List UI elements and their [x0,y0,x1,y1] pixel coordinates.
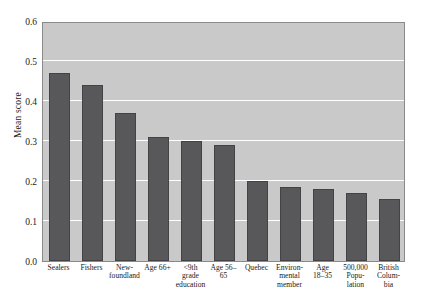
y-tick-label: 0.2 [25,177,37,187]
bar [346,193,366,261]
bar [82,85,102,261]
x-tick-label: Age 56–65 [207,264,240,281]
x-tick-label-line: Sealers [42,264,75,272]
x-axis-tick-labels: SealersFishersNew-foundlandAge 66+<9thgr… [42,264,405,297]
y-tick-label: 0.3 [25,137,37,147]
x-tick-label-line: bia [372,281,405,289]
y-tick-label: 0.0 [25,257,37,267]
y-tick-label: 0.5 [25,57,37,67]
bar [280,187,300,261]
x-tick-label-line: education [174,281,207,289]
y-tick-label: 0.1 [25,217,37,227]
bar [181,141,201,261]
x-tick-label: <9thgradeeducation [174,264,207,289]
x-tick-label: Age18–35 [306,264,339,281]
x-tick-label-line: 65 [207,272,240,280]
bars-layer [43,23,404,261]
x-tick-label: New-foundland [108,264,141,281]
bar [148,137,168,261]
x-tick-label: Environ-mentalmember [273,264,306,289]
x-tick-label-line: lation [339,281,372,289]
plot-area [42,22,405,262]
bar [49,73,69,261]
x-tick-label-line: 18–35 [306,272,339,280]
bar-chart: Mean score 0.00.10.20.30.40.50.6 Sealers… [0,0,422,297]
x-tick-label: Fishers [75,264,108,272]
y-axis-tick-labels: 0.00.10.20.30.40.50.6 [0,0,40,297]
x-tick-label: 500,000Popu-lation [339,264,372,289]
x-tick-label: Sealers [42,264,75,272]
bar [313,189,333,261]
bar [379,199,399,261]
x-tick-label: Quebec [240,264,273,272]
bar [214,145,234,261]
x-tick-label-line: foundland [108,272,141,280]
bar [115,113,135,261]
x-tick-label-line: Fishers [75,264,108,272]
x-tick-label-line: Age 66+ [141,264,174,272]
x-tick-label-line: Quebec [240,264,273,272]
y-tick-label: 0.6 [25,17,37,27]
y-tick-label: 0.4 [25,97,37,107]
x-tick-label: BritishColum-bia [372,264,405,289]
x-tick-label-line: member [273,281,306,289]
x-tick-label: Age 66+ [141,264,174,272]
bar [247,181,267,261]
